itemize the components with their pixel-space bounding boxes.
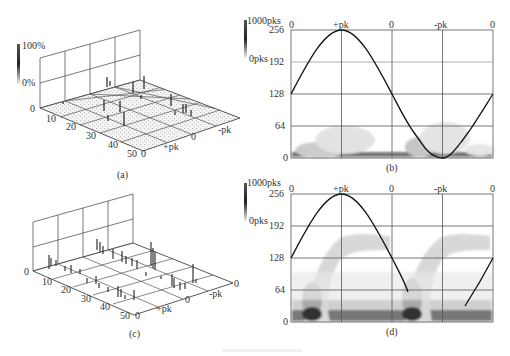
- tick-c-cycle-20: 20: [61, 284, 71, 295]
- floor-a: [40, 80, 240, 151]
- colorbar-d: [244, 183, 247, 221]
- caption-d: (d): [386, 326, 398, 338]
- panel-a: 100% 0%: [17, 30, 240, 181]
- tick-a-phase-pospk: +pk: [163, 141, 179, 152]
- figure-canvas: 100% 0%: [0, 0, 510, 356]
- tick-a-phase-negpk: -pk: [218, 124, 231, 135]
- tick-a-phase-0: 0: [141, 148, 146, 159]
- tick-a-cycle-0: 0: [30, 103, 35, 114]
- tick-a-cycle-20: 20: [66, 121, 76, 132]
- floor-c: [33, 243, 233, 315]
- colorbar-d-min: 0pks: [249, 215, 268, 226]
- tick-d-y-256: 256: [269, 188, 284, 199]
- tick-b-y-192: 192: [269, 56, 284, 67]
- tick-c-phase-negpk: -pk: [209, 288, 222, 299]
- y-axis-b: 256 192 128 64 0: [269, 24, 288, 163]
- colorbar-a-min: 0%: [22, 77, 35, 88]
- density-b: [292, 122, 495, 158]
- tick-a-cycle-10: 10: [46, 113, 56, 124]
- tick-d-x-0b: 0: [389, 183, 394, 194]
- tick-d-y-192: 192: [269, 220, 284, 231]
- tick-d-x-0: 0: [289, 183, 294, 194]
- caption-a: (a): [117, 169, 128, 181]
- tick-b-y-0: 0: [283, 152, 288, 163]
- tick-c-phase-pospk: +pk: [156, 303, 172, 314]
- tick-b-y-128: 128: [269, 88, 284, 99]
- tick-a-cycle-30: 30: [86, 130, 96, 141]
- tick-d-y-64: 64: [275, 284, 285, 295]
- caption-b: (b): [386, 162, 398, 174]
- tick-d-x-0c: 0: [490, 183, 495, 194]
- tick-b-x-0c: 0: [490, 19, 495, 30]
- tick-a-cycle-50: 50: [127, 148, 137, 159]
- tick-b-y-64: 64: [275, 120, 285, 131]
- colorbar-d-max: 1000pks: [247, 177, 281, 188]
- tick-c-cycle-30: 30: [81, 293, 91, 304]
- tick-b-x-negpk: -pk: [434, 19, 447, 30]
- panel-d: 1000pks 0pks 256 192 128: [244, 177, 495, 338]
- tick-a-phase-0b: 0: [191, 131, 196, 142]
- colorbar-a: [17, 44, 20, 84]
- colorbar-b-min: 0pks: [249, 53, 268, 64]
- colorbar-a-max: 100%: [22, 40, 45, 51]
- tick-d-x-negpk: -pk: [434, 183, 447, 194]
- tick-b-y-256: 256: [269, 24, 284, 35]
- x-axis-d: 0 +pk 0 -pk 0: [289, 183, 495, 194]
- panel-b: 1000pks 0pks 256 192 128 64: [244, 15, 495, 174]
- figure-caption-faint: [222, 349, 302, 352]
- tick-c-cycle-10: 10: [42, 276, 52, 287]
- tick-c-phase-0: 0: [135, 310, 140, 321]
- tick-c-cycle-0: 0: [24, 266, 29, 277]
- tick-c-cycle-40: 40: [100, 301, 110, 312]
- tick-d-y-128: 128: [269, 252, 284, 263]
- tick-b-x-0: 0: [289, 19, 294, 30]
- tick-c-cycle-50: 50: [120, 310, 130, 321]
- tick-b-x-0b: 0: [389, 19, 394, 30]
- tick-d-y-0: 0: [283, 316, 288, 327]
- tick-c-phase-0c: 0: [234, 278, 239, 289]
- tick-c-phase-0b: 0: [185, 294, 190, 305]
- caption-c: (c): [129, 328, 140, 340]
- panel-c: 0 10 20 30 40 50 0 +pk 0 -pk 0 (c): [24, 194, 239, 340]
- tick-b-x-pospk: +pk: [333, 19, 349, 30]
- x-axis-b: 0 +pk 0 -pk 0: [289, 19, 495, 30]
- tick-d-x-pospk: +pk: [333, 183, 349, 194]
- y-axis-d: 256 192 128 64 0: [269, 188, 288, 327]
- tick-a-cycle-40: 40: [108, 139, 118, 150]
